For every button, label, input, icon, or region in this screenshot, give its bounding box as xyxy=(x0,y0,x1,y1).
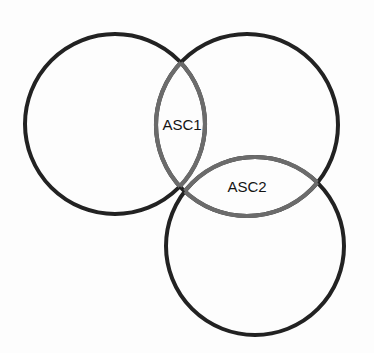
venn-diagram: ASC1 ASC2 xyxy=(0,0,374,353)
label-asc1: ASC1 xyxy=(162,116,201,133)
circle-outlines xyxy=(25,34,344,335)
label-asc2: ASC2 xyxy=(227,178,266,195)
inner-arcs xyxy=(25,34,344,335)
diagram-canvas: ASC1 ASC2 xyxy=(0,0,374,353)
